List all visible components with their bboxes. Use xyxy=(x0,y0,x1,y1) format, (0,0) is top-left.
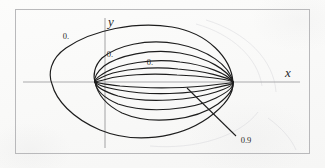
level-curve-2 xyxy=(94,42,233,120)
figure-canvas: x y 0. 0. 0. 0.9 xyxy=(0,0,325,168)
level-curve-5 xyxy=(95,68,233,94)
contour-label-inner: 0.9 xyxy=(241,135,252,145)
contour-label-outer: 0. xyxy=(63,31,69,41)
level-curve-4 xyxy=(95,61,233,101)
y-axis-label: y xyxy=(106,14,114,29)
level-curve-inner xyxy=(95,74,233,88)
contour-label-third: 0. xyxy=(147,57,153,67)
contour-label-second: 0. xyxy=(107,49,113,59)
figure-container: x y 0. 0. 0. 0.9 xyxy=(0,0,325,168)
leader-line-to-inner-curve xyxy=(187,88,236,136)
scan-ghost-artifacts xyxy=(150,20,296,150)
x-axis-label: x xyxy=(284,65,291,80)
